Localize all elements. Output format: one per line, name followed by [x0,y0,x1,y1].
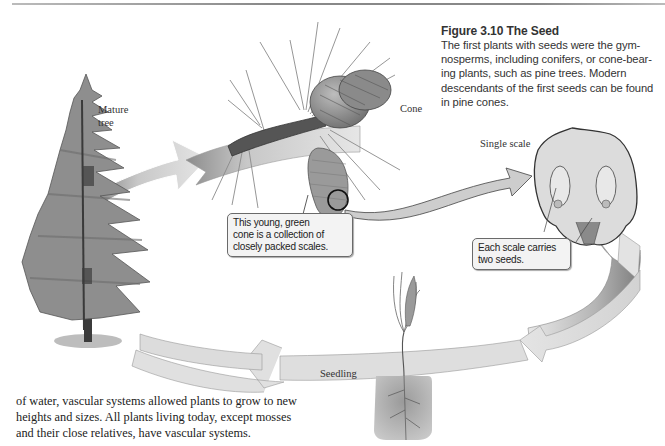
body-paragraph: of water, vascular systems allowed plant… [16,393,356,441]
callout-young-cone: This young, green cone is a collection o… [227,213,353,257]
label-single-scale: Single scale [480,137,530,150]
body-line: of water, vascular systems allowed plant… [16,393,356,409]
figure-caption-text: The first plants with seeds were the gym… [441,38,665,109]
caption-line: in pine cones. [441,95,665,109]
caption-line: ing plants, such as pine trees. Modern [441,66,665,80]
body-line: heights and sizes. All plants living tod… [16,409,356,425]
label-seedling: Seedling [320,367,357,380]
label-mature-tree-line2: tree [98,116,128,129]
scale-illustration [534,128,637,245]
label-mature-tree-line1: Mature [98,103,128,116]
caption-line: The first plants with seeds were the gym… [441,38,665,52]
caption-line: descendants of the first seeds can be fo… [441,81,665,95]
callout-line: Each scale carries [478,242,565,254]
cycle-arrow-bottom [132,334,528,392]
label-cone: Cone [400,102,422,115]
body-line: and their close relatives, have vascular… [16,425,356,441]
cycle-arrow-cone-to-scale [345,168,532,220]
callout-line: closely packed scales. [233,241,347,253]
callout-line: two seeds. [478,254,565,266]
figure-title: Figure 3.10 The Seed [441,24,665,38]
callout-line: cone is a collection of [233,229,347,241]
callout-line: This young, green [233,217,347,229]
callout-scale-seeds: Each scale carries two seeds. [472,238,571,270]
label-mature-tree: Mature tree [98,103,128,129]
figure-caption: Figure 3.10 The Seed The first plants wi… [441,24,665,109]
pine-tree-illustration [22,74,150,348]
caption-line: nosperms, including conifers, or cone-be… [441,52,665,66]
pine-cone-illustration [212,22,400,208]
